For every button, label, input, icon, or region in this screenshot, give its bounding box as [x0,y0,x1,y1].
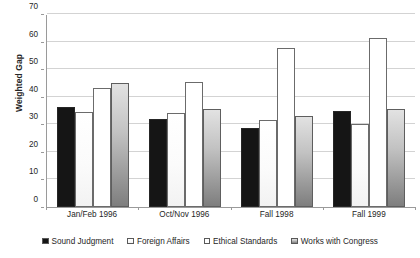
y-tick-mark-10 [41,179,44,180]
x-axis-label: Oct/Nov 1996 [138,210,230,220]
x-tick-mark [415,207,416,210]
legend-swatch-icon [204,238,211,245]
bar [333,111,351,208]
legend-label: Ethical Standards [213,237,277,246]
legend-label: Works with Congress [301,237,378,246]
y-tick-mark-70 [41,14,44,15]
y-tick-mark-0 [41,207,44,208]
bar-group [231,15,323,207]
bar [295,116,313,207]
bar-group [139,15,231,207]
bar [387,109,405,207]
legend-label: Foreign Affairs [137,237,190,246]
bar [369,38,387,207]
chart-legend: Sound JudgmentForeign AffairsEthical Sta… [0,234,420,248]
bar [241,128,259,207]
y-tick-label-40: 40 [2,86,38,94]
y-tick-mark-40 [41,97,44,98]
bar-group [47,15,139,207]
y-axis-ticks: 010203040506070 [0,15,44,208]
plot-area [46,15,415,208]
x-axis-label: Fall 1999 [323,210,415,220]
bar [75,112,93,207]
y-tick-mark-30 [41,124,44,125]
bar [57,107,75,207]
bar [203,109,221,207]
bar-groups [47,15,415,207]
legend-swatch-icon [42,238,49,245]
x-tick-mark [46,207,47,210]
y-tick-label-10: 10 [2,168,38,176]
bar [259,120,277,207]
y-tick-mark-50 [41,69,44,70]
legend-swatch-icon [127,238,134,245]
legend-item[interactable]: Foreign Affairs [127,237,189,246]
y-tick-label-60: 60 [2,31,38,39]
y-tick-mark-20 [41,152,44,153]
bar-chart: Weighted Gap 010203040506070 Jan/Feb 199… [0,0,420,258]
bar [93,88,111,207]
bar-group [323,15,415,207]
y-tick-label-20: 20 [2,141,38,149]
x-axis-label: Fall 1998 [231,210,323,220]
y-tick-label-30: 30 [2,113,38,121]
legend-item[interactable]: Ethical Standards [204,237,278,246]
bar [351,124,369,207]
y-tick-mark-60 [41,42,44,43]
bar [167,113,185,207]
bar [277,48,295,207]
x-axis-label: Jan/Feb 1996 [46,210,138,220]
bar [111,83,129,207]
legend-item[interactable]: Works with Congress [291,237,378,246]
gridline-70 [47,13,415,14]
legend-item[interactable]: Sound Judgment [42,237,113,246]
legend-swatch-icon [291,238,298,245]
y-tick-label-70: 70 [2,3,38,11]
bar [185,82,203,207]
x-axis-categories: Jan/Feb 1996Oct/Nov 1996Fall 1998Fall 19… [46,210,415,224]
y-tick-label-0: 0 [2,196,38,204]
y-tick-label-50: 50 [2,58,38,66]
bar [149,119,167,207]
legend-label: Sound Judgment [52,237,114,246]
